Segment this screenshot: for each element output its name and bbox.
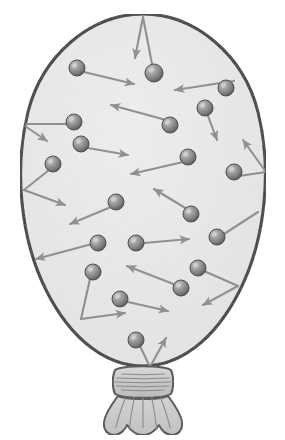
balloon-tail-skirt-group: [104, 396, 182, 435]
molecule-sphere: [73, 136, 89, 152]
balloon-envelope-group: [21, 14, 266, 366]
gas-molecule: [112, 291, 128, 307]
molecule-sphere: [173, 280, 189, 296]
balloon-envelope: [21, 14, 266, 366]
molecule-sphere: [190, 260, 206, 276]
molecule-sphere: [45, 156, 61, 172]
balloon-illustration: [0, 0, 285, 440]
molecule-sphere: [128, 235, 144, 251]
gas-molecule: [180, 149, 196, 165]
molecule-sphere: [197, 100, 213, 116]
gas-molecule: [128, 332, 144, 348]
balloon-diagram: [0, 0, 285, 440]
molecule-sphere: [90, 235, 106, 251]
molecule-sphere: [209, 229, 225, 245]
gas-molecule: [218, 80, 234, 96]
gas-molecule: [73, 136, 89, 152]
gas-molecule: [226, 164, 242, 180]
molecule-sphere: [180, 149, 196, 165]
gas-molecule: [197, 100, 213, 116]
gas-molecule: [108, 194, 124, 210]
gas-molecule: [145, 64, 163, 82]
gas-molecule: [128, 235, 144, 251]
gas-molecule: [190, 260, 206, 276]
molecule-sphere: [128, 332, 144, 348]
gas-molecule: [69, 60, 85, 76]
balloon-knot-group: [113, 366, 174, 398]
molecule-sphere: [66, 114, 82, 130]
molecule-sphere: [218, 80, 234, 96]
gas-molecule: [90, 235, 106, 251]
molecule-sphere: [162, 117, 178, 133]
molecule-sphere: [112, 291, 128, 307]
molecule-sphere: [108, 194, 124, 210]
gas-molecule: [209, 229, 225, 245]
molecule-sphere: [183, 206, 199, 222]
gas-molecule: [162, 117, 178, 133]
molecule-sphere: [145, 64, 163, 82]
molecule-sphere: [85, 264, 101, 280]
gas-molecule: [45, 156, 61, 172]
gas-molecule: [183, 206, 199, 222]
molecule-sphere: [69, 60, 85, 76]
gas-molecule: [85, 264, 101, 280]
gas-molecule: [66, 114, 82, 130]
gas-molecule: [173, 280, 189, 296]
molecule-sphere: [226, 164, 242, 180]
